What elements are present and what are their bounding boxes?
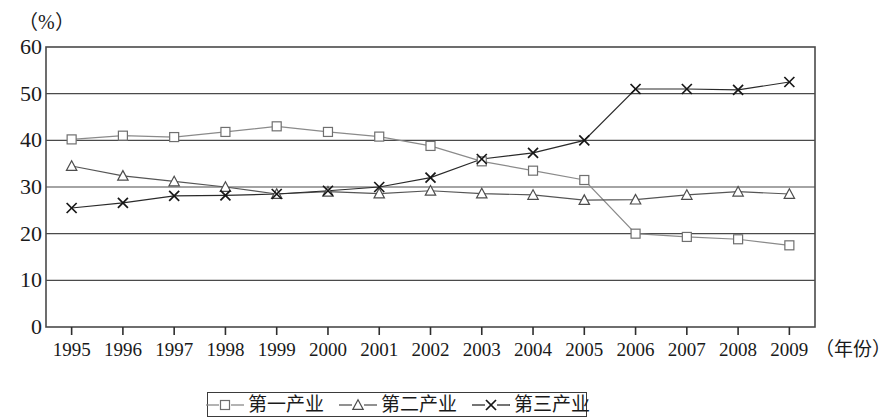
x-axis-tick-2002: 2002: [405, 340, 457, 359]
data-point-s1-2000: [323, 127, 332, 136]
cross-marker-icon: [471, 397, 511, 413]
data-point-s1-2001: [375, 132, 384, 141]
legend-label-2: 第二产业: [381, 395, 457, 414]
data-point-s1-2006: [631, 229, 640, 238]
x-axis-tick-2007: 2007: [661, 340, 713, 359]
triangle-marker-icon: [338, 397, 378, 413]
y-axis-tick-50: 50: [0, 83, 42, 105]
y-axis-tick-30: 30: [0, 176, 42, 198]
data-point-s1-2007: [682, 232, 691, 241]
data-point-s1-1999: [272, 122, 281, 131]
x-axis-tick-1999: 1999: [251, 340, 303, 359]
data-point-s1-2004: [529, 166, 538, 175]
legend-item-2[interactable]: 第二产业: [338, 395, 457, 414]
square-marker-icon: [205, 397, 245, 413]
y-axis-tick-40: 40: [0, 129, 42, 151]
x-axis-tick-1998: 1998: [199, 340, 251, 359]
y-axis-unit-label: （%）: [18, 6, 75, 35]
data-point-s1-2009: [785, 241, 794, 250]
chart-legend: 第一产业第二产业第三产业: [207, 392, 587, 417]
x-axis-tick-2006: 2006: [610, 340, 662, 359]
x-axis-tick-2005: 2005: [558, 340, 610, 359]
y-axis-tick-60: 60: [0, 36, 42, 58]
x-axis-title: （年份）: [815, 340, 883, 359]
x-axis-tick-2009: 2009: [763, 340, 815, 359]
y-axis-tick-10: 10: [0, 269, 42, 291]
legend-label-3: 第三产业: [514, 395, 590, 414]
legend-item-3[interactable]: 第三产业: [471, 395, 590, 414]
legend-item-1[interactable]: 第一产业: [205, 395, 324, 414]
data-point-s1-1998: [221, 127, 230, 136]
data-point-s1-1997: [170, 133, 179, 142]
x-axis-tick-1997: 1997: [148, 340, 200, 359]
data-point-s1-1996: [118, 131, 127, 140]
data-point-s1-2002: [426, 141, 435, 150]
x-axis-tick-2003: 2003: [456, 340, 508, 359]
x-axis-tick-1996: 1996: [97, 340, 149, 359]
data-point-s1-2005: [580, 176, 589, 185]
data-point-s1-2008: [734, 235, 743, 244]
data-point-s1-1995: [67, 135, 76, 144]
x-axis-tick-2004: 2004: [507, 340, 559, 359]
x-axis-tick-2008: 2008: [712, 340, 764, 359]
x-axis-tick-2000: 2000: [302, 340, 354, 359]
x-axis-tick-1995: 1995: [46, 340, 98, 359]
data-point-s2-1995: [66, 161, 76, 171]
x-axis-tick-2001: 2001: [353, 340, 405, 359]
y-axis-tick-20: 20: [0, 223, 42, 245]
legend-label-1: 第一产业: [248, 395, 324, 414]
y-axis-tick-0: 0: [0, 316, 42, 338]
